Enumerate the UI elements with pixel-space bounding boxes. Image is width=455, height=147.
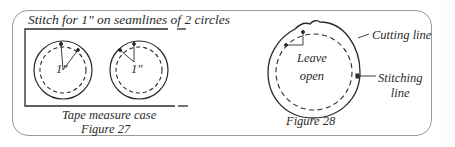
measure-label-left: 1": [56, 62, 68, 77]
figure27-drawing: [25, 29, 188, 106]
figure27-caption-title: Tape measure case: [62, 108, 156, 123]
figure28-caption: Figure 28: [286, 114, 335, 129]
figure27-instruction: Stitch for 1" on seamlines of 2 circles: [28, 12, 230, 28]
figure27-caption-number: Figure 27: [81, 122, 130, 137]
leave-open-line2: open: [297, 67, 327, 85]
stitching-line-label-line2: line: [378, 86, 422, 101]
leave-open-label: Leave open: [297, 49, 327, 85]
stitching-line-label: Stitching line: [378, 71, 422, 101]
cutting-line-label: Cutting line: [372, 28, 431, 43]
right-margin: [440, 0, 455, 147]
leave-open-line1: Leave: [297, 49, 327, 67]
stitching-line-label-line1: Stitching: [378, 71, 422, 86]
measure-label-right: 1": [131, 62, 143, 77]
